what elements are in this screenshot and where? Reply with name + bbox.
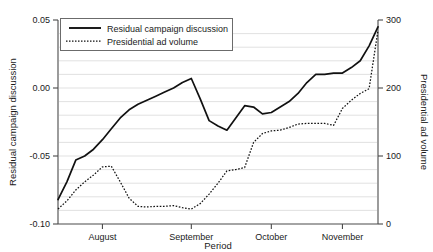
right-axis-tick-label: 200: [386, 83, 401, 93]
right-axis-tick-label: 100: [386, 151, 401, 161]
left-axis-tick-label: -0.10: [29, 219, 50, 229]
left-axis-tick-label: 0.05: [32, 15, 50, 25]
chart-legend: Residual campaign discussion Presidentia…: [61, 19, 233, 51]
x-axis-tick-label: October: [255, 232, 287, 242]
x-axis-title: Period: [204, 240, 231, 251]
chart-figure: 0.050.00-0.05-0.10 3002001000 AugustSept…: [0, 0, 433, 252]
left-axis-title: Residual campaign discussion: [7, 58, 18, 186]
right-axis-tick-label: 0: [386, 219, 391, 229]
left-axis-tick-label: 0.00: [32, 83, 50, 93]
line-chart-canvas: 0.050.00-0.05-0.10 3002001000 AugustSept…: [0, 0, 433, 252]
left-axis-tick-label: -0.05: [29, 151, 50, 161]
right-axis-title: Presidential ad volume: [419, 74, 430, 170]
right-axis-tick-label: 300: [386, 15, 401, 25]
x-axis-tick-label: August: [88, 232, 117, 242]
legend-label-residual-campaign-discussion: Residual campaign discussion: [107, 24, 228, 34]
x-axis-tick-label: November: [322, 232, 364, 242]
legend-label-presidential-ad-volume: Presidential ad volume: [107, 37, 198, 47]
